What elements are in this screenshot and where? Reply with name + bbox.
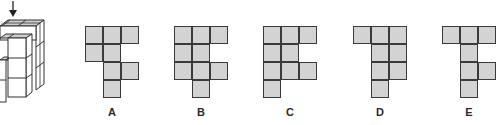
option-label: C [280,106,300,118]
option-label: A [102,106,122,118]
grid-cell [281,26,299,44]
grid-cell [192,62,210,80]
grid-cell [121,26,139,44]
grid-cell [263,26,281,44]
grid-cell [85,26,103,44]
grid-cell [263,80,281,98]
puzzle-stage: ABCDE [0,0,503,125]
grid-cell [442,26,460,44]
grid-cell [299,26,317,44]
grid-cell [121,62,139,80]
grid-cell [460,44,478,62]
grid-cell [371,80,389,98]
grid-cell [389,26,407,44]
down-arrow-icon [9,1,17,17]
grid-cell [389,62,407,80]
grid-cell [263,62,281,80]
grid-cell [353,26,371,44]
grid-cell [103,80,121,98]
grid-cell [478,26,496,44]
grid-cell [389,44,407,62]
grid-cell [281,62,299,80]
grid-cell [478,62,496,80]
grid-cell [460,80,478,98]
grid-cell [103,44,121,62]
grid-cell [210,62,228,80]
grid-cell [192,44,210,62]
grid-cell [371,44,389,62]
option-label: E [459,106,479,118]
grid-cell [174,62,192,80]
grid-cell [103,26,121,44]
grid-cell [299,62,317,80]
grid-cell [460,62,478,80]
grid-cell [85,44,103,62]
grid-cell [210,26,228,44]
grid-cell [103,62,121,80]
grid-cell [460,26,478,44]
option-label: D [370,106,390,118]
option-label: B [191,106,211,118]
grid-cell [192,26,210,44]
grid-cell [371,26,389,44]
cube-figure [0,0,60,110]
grid-cell [174,26,192,44]
grid-cell [371,62,389,80]
grid-cell [281,44,299,62]
grid-cell [174,44,192,62]
grid-cell [263,44,281,62]
grid-cell [192,80,210,98]
